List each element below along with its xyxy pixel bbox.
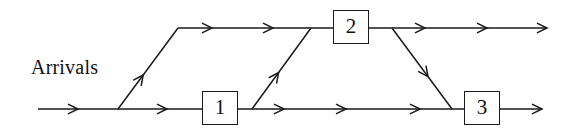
station-box-label-3: 3 xyxy=(477,97,488,118)
node-2-down-to-node-3 xyxy=(392,28,452,109)
station-box-2[interactable]: 2 xyxy=(333,10,369,44)
station-box-label-2: 2 xyxy=(346,16,357,37)
arrivals-label: Arrivals xyxy=(31,56,98,79)
branch-up-to-node-2 xyxy=(252,28,311,109)
station-box-label-1: 1 xyxy=(215,97,226,118)
queueing-network-diagram: Arrivals 123 xyxy=(0,0,565,138)
station-box-3[interactable]: 3 xyxy=(464,91,500,125)
station-box-1[interactable]: 1 xyxy=(202,91,238,125)
branch-up-to-top-lane xyxy=(118,28,178,109)
